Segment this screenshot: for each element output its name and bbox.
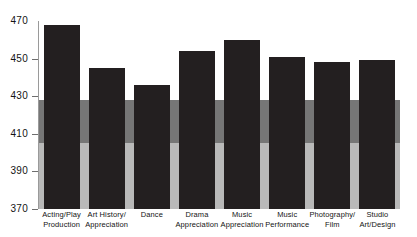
y-axis-tick-label: 450 bbox=[0, 54, 28, 64]
y-axis-tick-label: 370 bbox=[0, 204, 28, 214]
y-axis-tick-mark bbox=[32, 134, 38, 135]
plot-area bbox=[39, 21, 400, 209]
y-axis-tick-mark bbox=[32, 59, 38, 60]
bar bbox=[269, 57, 305, 209]
bars-layer bbox=[39, 21, 400, 209]
bar bbox=[44, 25, 80, 209]
x-axis-tick-label-line: Art/Design bbox=[349, 220, 406, 230]
bar bbox=[179, 51, 215, 209]
bar-chart: 470450430410390370 Acting/PlayProduction… bbox=[0, 0, 417, 237]
bar bbox=[224, 40, 260, 209]
x-axis-tick-label-line: Studio bbox=[349, 210, 406, 220]
y-axis: 470450430410390370 bbox=[0, 0, 30, 237]
x-axis-tick-label-line: Appreciation bbox=[78, 220, 135, 230]
bar bbox=[314, 62, 350, 209]
y-axis-tick-mark bbox=[32, 171, 38, 172]
y-axis-tick-label: 470 bbox=[0, 16, 28, 26]
bar bbox=[359, 60, 395, 209]
y-axis-tick-label: 410 bbox=[0, 129, 28, 139]
x-axis-tick-label: StudioArt/Design bbox=[349, 210, 406, 229]
y-axis-tick-label: 390 bbox=[0, 166, 28, 176]
bar bbox=[89, 68, 125, 209]
y-axis-tick-mark bbox=[32, 96, 38, 97]
x-axis: Acting/PlayProductionArt History/Appreci… bbox=[39, 210, 400, 237]
y-axis-tick-label: 430 bbox=[0, 91, 28, 101]
bar bbox=[134, 85, 170, 209]
y-axis-tick-mark bbox=[32, 209, 38, 210]
